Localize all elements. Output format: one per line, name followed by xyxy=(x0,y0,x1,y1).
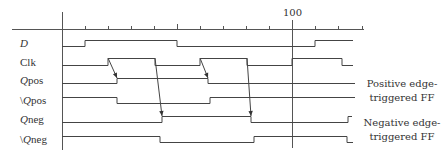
causality-arrows xyxy=(108,58,253,116)
signal-label: Clk xyxy=(20,57,36,68)
annotation-line: triggered FF xyxy=(362,130,442,144)
arrowhead-icon xyxy=(204,73,208,78)
positive-edge-annotation: Positive edge- triggered FF xyxy=(362,77,442,105)
waveform-qneg xyxy=(62,117,352,123)
annotation-line: Negative edge- xyxy=(362,116,442,130)
signal-label: \Qpos xyxy=(20,95,46,106)
annotation-line: triggered FF xyxy=(362,91,442,105)
axis-ticks xyxy=(86,24,363,30)
signal-label: Qneg xyxy=(20,114,44,125)
annotation-line: Positive edge- xyxy=(362,77,442,91)
signal-label: D xyxy=(20,38,28,49)
signal-label: \Qneg xyxy=(20,134,47,145)
waveform-qpos xyxy=(62,79,355,84)
waveform-d xyxy=(62,41,353,47)
waveform-clk xyxy=(62,59,353,66)
arrow-line xyxy=(247,58,251,116)
arrowhead-icon xyxy=(248,111,252,116)
signal-label: Qpos xyxy=(20,75,43,86)
axis-major-label: 100 xyxy=(283,8,302,18)
axes xyxy=(12,12,364,150)
arrowhead-icon xyxy=(159,111,163,116)
arrow-line xyxy=(155,58,162,116)
waveforms xyxy=(62,41,355,143)
waveform-not-qpos xyxy=(62,98,355,104)
negative-edge-annotation: Negative edge- triggered FF xyxy=(362,116,442,144)
waveform-not-qneg xyxy=(62,137,353,143)
